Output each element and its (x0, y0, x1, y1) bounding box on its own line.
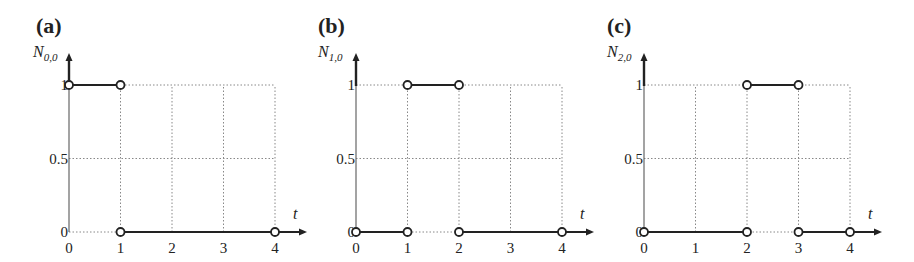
chart-figure: (a)N0,0t0123400.51(b)N1,0t0123400.51(c)N… (0, 0, 914, 262)
chart-panel-a: (a)N0,0t0123400.51 (32, 13, 307, 256)
x-axis-arrow-icon (299, 229, 307, 236)
chart-panel-b: (b)N1,0t0123400.51 (317, 13, 594, 256)
x-tick-label: 0 (352, 240, 360, 256)
y-axis-arrow-icon (66, 53, 73, 61)
open-point-marker (455, 228, 463, 236)
open-point-marker (404, 81, 412, 89)
x-tick-label: 3 (795, 240, 803, 256)
open-point-marker (455, 81, 463, 89)
y-axis-label: N1,0 (317, 43, 343, 63)
open-point-marker (795, 228, 803, 236)
open-point-marker (352, 228, 360, 236)
x-tick-label: 1 (117, 240, 125, 256)
x-axis-arrow-icon (874, 229, 882, 236)
open-point-marker (640, 228, 648, 236)
x-axis-label: t (293, 205, 298, 222)
x-axis-label: t (868, 205, 873, 222)
open-point-marker (743, 81, 751, 89)
y-axis-label: N0,0 (32, 43, 58, 63)
panel-label: (b) (318, 13, 345, 38)
open-point-marker (558, 228, 566, 236)
y-tick-label: 0 (61, 224, 69, 240)
x-axis-label: t (580, 205, 585, 222)
x-tick-label: 2 (743, 240, 751, 256)
x-tick-label: 4 (558, 240, 566, 256)
y-tick-label: 0.5 (336, 151, 355, 167)
y-tick-label: 0.5 (624, 151, 643, 167)
x-tick-label: 4 (271, 240, 279, 256)
open-point-marker (846, 228, 854, 236)
x-tick-label: 2 (455, 240, 463, 256)
y-tick-label: 0.5 (49, 151, 68, 167)
y-tick-label: 1 (636, 77, 644, 93)
open-point-marker (117, 228, 125, 236)
x-tick-label: 3 (507, 240, 515, 256)
panel-label: (c) (607, 13, 631, 38)
y-axis-label: N2,0 (606, 43, 632, 63)
x-tick-label: 0 (65, 240, 73, 256)
open-point-marker (65, 81, 73, 89)
open-point-marker (795, 81, 803, 89)
panel-label: (a) (36, 13, 62, 38)
open-point-marker (743, 228, 751, 236)
x-tick-label: 4 (846, 240, 854, 256)
x-tick-label: 0 (640, 240, 648, 256)
y-tick-label: 1 (348, 77, 356, 93)
x-tick-label: 2 (168, 240, 176, 256)
figure: (a)N0,0t0123400.51(b)N1,0t0123400.51(c)N… (0, 0, 914, 262)
x-tick-label: 1 (692, 240, 700, 256)
open-point-marker (404, 228, 412, 236)
gridlines (644, 85, 850, 232)
gridlines (69, 85, 275, 232)
open-point-marker (271, 228, 279, 236)
x-tick-label: 3 (220, 240, 228, 256)
gridlines (356, 85, 562, 232)
chart-panel-c: (c)N2,0t0123400.51 (606, 13, 882, 256)
open-point-marker (117, 81, 125, 89)
x-tick-label: 1 (404, 240, 412, 256)
y-axis-arrow-icon (353, 53, 360, 61)
x-axis-arrow-icon (586, 229, 594, 236)
y-axis-arrow-icon (641, 53, 648, 61)
